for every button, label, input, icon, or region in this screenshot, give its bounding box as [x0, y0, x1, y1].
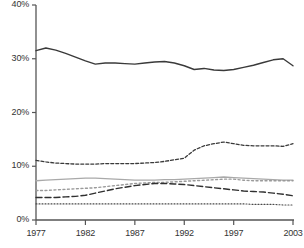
- y-axis-tick-label: 40%: [0, 0, 29, 9]
- series-line-series-3-solid-gray: [36, 177, 293, 181]
- series-line-series-5-dashed-long: [36, 183, 293, 197]
- y-axis-tick-label: 10%: [0, 160, 29, 170]
- y-axis-tick-label: 20%: [0, 107, 29, 117]
- y-axis-tick-label: 30%: [0, 53, 29, 63]
- series-line-series-6-dotted-fine: [36, 204, 293, 205]
- x-axis-tick-label: 1982: [65, 228, 105, 238]
- series-line-series-1-solid-dark: [36, 48, 293, 71]
- y-axis-tick-label: 0%: [0, 214, 29, 224]
- x-axis-tick-label: 1977: [16, 228, 56, 238]
- x-axis-tick-label: 1987: [115, 228, 155, 238]
- chart-plot-area: [0, 0, 304, 248]
- x-axis-tick-label: 2003: [273, 228, 304, 238]
- series-line-series-4-dotted-gray: [36, 179, 293, 190]
- x-axis-tick-label: 1992: [164, 228, 204, 238]
- line-chart: 0%10%20%30%40%197719821987199219972003: [0, 0, 304, 248]
- series-line-series-2-dashed-dark: [36, 142, 293, 164]
- x-axis-tick-label: 1997: [214, 228, 254, 238]
